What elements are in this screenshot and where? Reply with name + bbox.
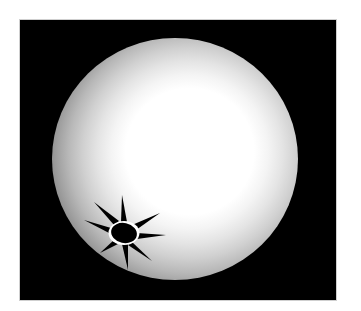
sphere-diagram: [0, 0, 361, 311]
shaded-sphere: [52, 38, 298, 280]
